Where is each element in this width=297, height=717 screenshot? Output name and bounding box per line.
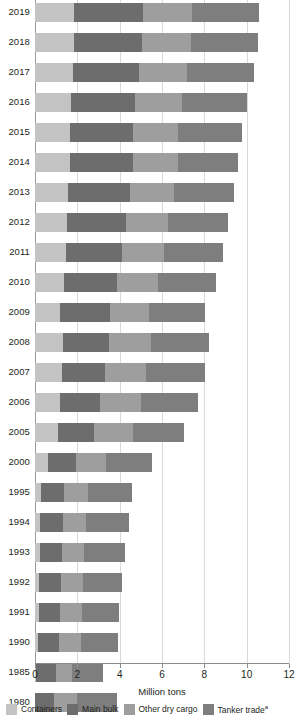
chart-row: 1991 (0, 600, 297, 630)
plot-area: 2019201820172016201520142013201220112010… (0, 0, 297, 664)
x-tick-label: 12 (274, 669, 297, 680)
bar-segment-containers (35, 153, 70, 172)
stacked-bar (35, 333, 209, 352)
chart-row: 2013 (0, 180, 297, 210)
bar-segment-containers (35, 423, 58, 442)
bar-segment-main-bulk (48, 453, 76, 472)
bar-segment-containers (35, 333, 63, 352)
bar-segment-main-bulk (40, 513, 63, 532)
stacked-bar (35, 183, 234, 202)
bar-segment-main-bulk (74, 33, 142, 52)
chart-row: 2011 (0, 240, 297, 270)
chart-row: 2006 (0, 390, 297, 420)
bar-segment-main-bulk (38, 633, 59, 652)
bar-segment-other-dry-cargo (76, 453, 106, 472)
bar-segment-main-bulk (63, 333, 109, 352)
legend-label: Other dry cargo (139, 704, 198, 714)
bar-segment-tanker-trade (174, 183, 234, 202)
bar-segment-main-bulk (74, 3, 142, 22)
stacked-bar (35, 453, 152, 472)
bar-segment-other-dry-cargo (94, 423, 133, 442)
bar-segment-other-dry-cargo (105, 363, 146, 382)
stacked-bar (35, 393, 198, 412)
x-tick-label: 4 (105, 669, 135, 680)
bar-segment-main-bulk (73, 63, 140, 82)
bar-segment-main-bulk (70, 123, 132, 142)
chart-row: 2016 (0, 90, 297, 120)
bar-segment-containers (35, 243, 66, 262)
year-label: 2014 (0, 152, 30, 171)
bar-segment-main-bulk (64, 273, 117, 292)
stacked-bar (35, 3, 259, 22)
bar-segment-tanker-trade (81, 633, 118, 652)
bar-segment-other-dry-cargo (61, 573, 83, 592)
legend-swatch (6, 704, 17, 715)
stacked-bar (35, 513, 129, 532)
year-label: 2009 (0, 302, 30, 321)
year-label: 2017 (0, 62, 30, 81)
year-label: 2012 (0, 212, 30, 231)
bar-segment-main-bulk (40, 543, 62, 562)
chart-row: 2010 (0, 270, 297, 300)
year-label: 2006 (0, 392, 30, 411)
chart-row: 2000 (0, 450, 297, 480)
bar-segment-tanker-trade (191, 33, 259, 52)
bar-segment-other-dry-cargo (143, 3, 193, 22)
x-tick-label: 8 (189, 669, 219, 680)
bar-segment-main-bulk (60, 393, 100, 412)
legend-swatch (67, 704, 78, 715)
bar-segment-tanker-trade (178, 153, 238, 172)
bar-segment-containers (35, 3, 74, 22)
bar-segment-main-bulk (66, 243, 123, 262)
tick-mark-4 (120, 664, 121, 668)
chart-row: 2018 (0, 30, 297, 60)
legend-label: Tanker tradea (218, 704, 269, 715)
bar-segment-other-dry-cargo (133, 123, 179, 142)
bar-segment-tanker-trade (164, 243, 223, 262)
bar-segment-other-dry-cargo (142, 33, 191, 52)
legend-item-main-bulk[interactable]: Main bulk (67, 704, 118, 715)
bar-segment-main-bulk (39, 573, 61, 592)
stacked-bar (35, 63, 254, 82)
bar-segment-main-bulk (39, 603, 60, 622)
stacked-bar (35, 363, 205, 382)
legend-swatch (203, 704, 214, 715)
year-label: 2007 (0, 362, 30, 381)
bar-segment-other-dry-cargo (122, 243, 164, 262)
bar-segment-containers (35, 303, 60, 322)
x-axis-title: Million tons (35, 686, 289, 697)
bar-segment-main-bulk (62, 363, 105, 382)
bar-segment-other-dry-cargo (110, 303, 148, 322)
year-label: 2010 (0, 272, 30, 291)
stacked-bar (35, 573, 122, 592)
legend-item-tanker-trade[interactable]: Tanker tradea (203, 704, 269, 715)
bar-segment-containers (35, 63, 73, 82)
bar-segment-containers (35, 183, 68, 202)
year-label: 1991 (0, 602, 30, 621)
stacked-bar (35, 33, 258, 52)
legend-item-containers[interactable]: Containers (6, 704, 62, 715)
chart-row: 1990 (0, 630, 297, 660)
stacked-bar (35, 93, 247, 112)
stacked-bar (35, 243, 223, 262)
bar-segment-containers (35, 453, 48, 472)
bar-segment-main-bulk (58, 423, 94, 442)
year-label: 2015 (0, 122, 30, 141)
legend-item-other-dry-cargo[interactable]: Other dry cargo (124, 704, 198, 715)
bar-segment-containers (35, 363, 62, 382)
stacked-bar (35, 213, 228, 232)
bar-segment-containers (35, 273, 64, 292)
year-label: 2005 (0, 422, 30, 441)
chart-row: 2005 (0, 420, 297, 450)
stacked-bar (35, 123, 242, 142)
stacked-bar-chart: 2019201820172016201520142013201220112010… (0, 0, 297, 717)
year-label: 2000 (0, 452, 30, 471)
bar-segment-tanker-trade (151, 333, 209, 352)
chart-row: 2008 (0, 330, 297, 360)
chart-row: 2019 (0, 0, 297, 30)
stacked-bar (35, 303, 205, 322)
year-label: 2013 (0, 182, 30, 201)
bar-segment-tanker-trade (158, 273, 216, 292)
bar-segment-tanker-trade (141, 393, 198, 412)
stacked-bar (35, 633, 118, 652)
